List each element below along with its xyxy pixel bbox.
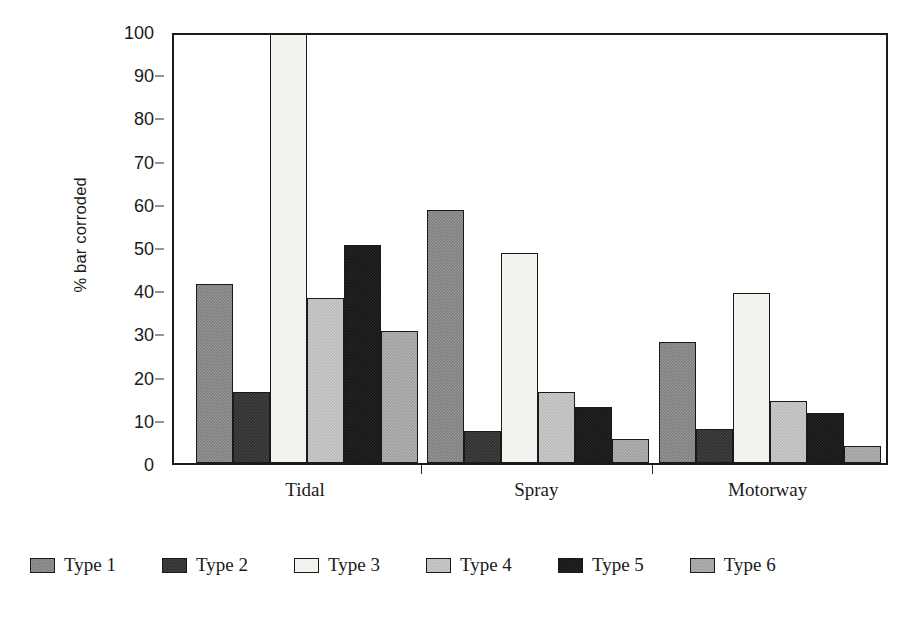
x-axis-labels: TidalSprayMotorway — [172, 479, 888, 509]
chart-legend: Type 1Type 2Type 3Type 4Type 5Type 6 — [30, 548, 890, 582]
bar — [381, 331, 418, 463]
bar — [696, 429, 733, 463]
bar — [464, 431, 501, 463]
bar — [659, 342, 696, 463]
bar — [501, 253, 538, 463]
x-axis-label: Spray — [514, 479, 558, 501]
legend-item[interactable]: Type 6 — [690, 554, 776, 576]
bar — [196, 284, 233, 463]
legend-label: Type 2 — [196, 554, 248, 576]
bar — [844, 446, 881, 463]
bar — [427, 210, 464, 463]
legend-item[interactable]: Type 1 — [30, 554, 116, 576]
bar — [233, 392, 270, 463]
plot-frame — [172, 33, 888, 465]
legend-item[interactable]: Type 2 — [162, 554, 248, 576]
y-tick-label: 90 — [134, 66, 154, 87]
legend-label: Type 1 — [64, 554, 116, 576]
bar — [770, 401, 807, 463]
legend-swatch-icon — [426, 558, 451, 573]
y-tick-label: 80 — [134, 109, 154, 130]
y-tick-label: 70 — [134, 152, 154, 173]
y-tick-mark — [155, 335, 164, 336]
legend-item[interactable]: Type 4 — [426, 554, 512, 576]
plot-area — [174, 35, 886, 463]
bar — [612, 439, 649, 463]
y-tick-mark — [155, 76, 164, 77]
x-tick-mark — [421, 465, 422, 474]
legend-item[interactable]: Type 3 — [294, 554, 380, 576]
y-tick-label: 50 — [134, 239, 154, 260]
x-axis-ticks — [172, 465, 888, 475]
y-axis-tick-labels: 0102030405060708090100 — [92, 33, 164, 465]
y-tick-label: 30 — [134, 325, 154, 346]
y-tick-label: 60 — [134, 195, 154, 216]
legend-label: Type 5 — [592, 554, 644, 576]
y-axis-title: % bar corroded — [0, 0, 90, 470]
y-tick-mark — [155, 205, 164, 206]
y-tick-mark — [155, 421, 164, 422]
bar — [307, 298, 344, 463]
y-tick-label: 40 — [134, 282, 154, 303]
legend-label: Type 4 — [460, 554, 512, 576]
y-tick-mark — [155, 292, 164, 293]
y-tick-mark — [155, 119, 164, 120]
bar-chart: % bar corroded 0102030405060708090100 Ti… — [0, 0, 919, 620]
y-tick-mark — [155, 378, 164, 379]
legend-item[interactable]: Type 5 — [558, 554, 644, 576]
x-tick-mark — [652, 465, 653, 474]
y-tick-label: 0 — [144, 455, 154, 476]
y-tick-mark — [155, 249, 164, 250]
y-tick-label: 20 — [134, 368, 154, 389]
legend-swatch-icon — [30, 558, 55, 573]
bar — [538, 392, 575, 463]
bar — [733, 293, 770, 463]
y-axis-title-text: % bar corroded — [71, 177, 90, 293]
legend-swatch-icon — [162, 558, 187, 573]
bar — [807, 413, 844, 463]
y-tick-label: 100 — [124, 23, 154, 44]
bar — [344, 245, 381, 463]
legend-label: Type 3 — [328, 554, 380, 576]
legend-swatch-icon — [558, 558, 583, 573]
bar — [575, 407, 612, 463]
legend-swatch-icon — [294, 558, 319, 573]
x-axis-label: Motorway — [728, 479, 807, 501]
x-axis-label: Tidal — [285, 479, 324, 501]
bar — [270, 35, 307, 463]
legend-label: Type 6 — [724, 554, 776, 576]
y-tick-mark — [155, 162, 164, 163]
legend-swatch-icon — [690, 558, 715, 573]
y-tick-label: 10 — [134, 411, 154, 432]
